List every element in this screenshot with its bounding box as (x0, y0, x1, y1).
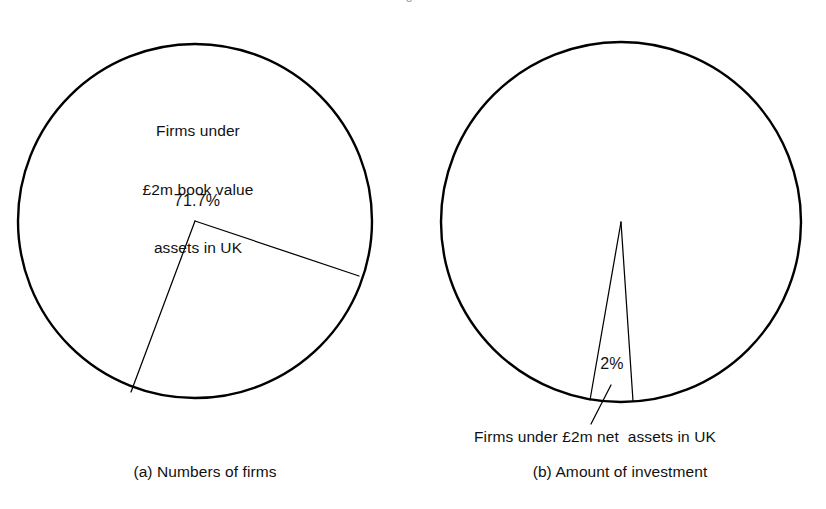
caption-b: (b) Amount of investment (470, 462, 770, 482)
pie-a-percent-label: 71.7% (132, 191, 262, 211)
caption-a: (a) Numbers of firms (60, 462, 350, 482)
pie-b-leader-label: Firms under £2m net assets in UK (420, 427, 770, 447)
figure-root: Figure Firms und (0, 0, 826, 509)
pie-a-inside-label-line-3: assets in UK (98, 238, 298, 258)
pie-a-inside-label-line-1: Firms under (98, 121, 298, 141)
pie-b-percent-label: 2% (577, 354, 647, 374)
pie-a-inside-label: Firms under £2m book value assets in UK (98, 82, 298, 297)
